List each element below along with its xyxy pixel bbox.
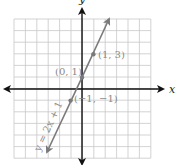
point-1-3 bbox=[91, 52, 95, 56]
x-axis-label: x bbox=[169, 83, 176, 96]
label-point-1-3: (1, 3) bbox=[98, 49, 125, 60]
point-neg1-neg1 bbox=[68, 98, 72, 102]
y-axis-label: y bbox=[78, 0, 86, 6]
coordinate-plane: x y (1, 3) (0, 1) (−1, −1) y = 2x + 1 bbox=[0, 0, 177, 165]
label-point-0-1: (0, 1) bbox=[55, 66, 82, 77]
label-point-neg1-neg1: (−1, −1) bbox=[74, 93, 118, 104]
